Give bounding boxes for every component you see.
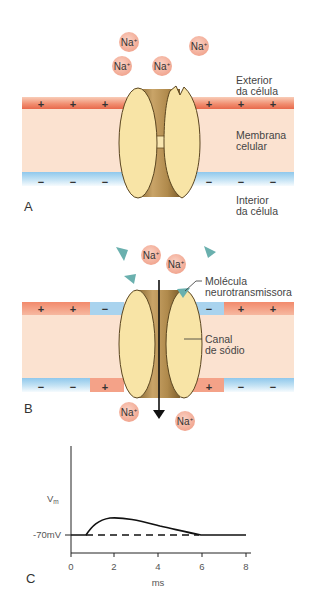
svg-text:−: −	[206, 303, 212, 315]
y-axis-label: Vm	[47, 493, 59, 505]
inner-negative-band	[22, 378, 90, 392]
x-tick-label: 8	[243, 561, 248, 572]
panel-label-a: A	[24, 199, 33, 214]
molecule-label-line2: neurotransmissora	[205, 286, 292, 298]
sodium-ion: Na+	[119, 32, 139, 52]
outer-positive-band	[22, 302, 90, 315]
sodium-ion: Na+	[119, 402, 139, 422]
svg-text:+: +	[38, 303, 44, 315]
sodium-channel-open	[119, 290, 202, 398]
panel-b: + + − − + + − − + + − −	[22, 245, 294, 431]
x-tick-label: 4	[155, 561, 160, 572]
membrane-potential-curve	[71, 518, 246, 535]
baseline-label: -70mV	[33, 529, 62, 540]
sodium-ion: Na+	[189, 36, 209, 56]
sodium-ion: Na+	[152, 56, 172, 76]
svg-text:+: +	[102, 381, 108, 393]
svg-text:−: −	[38, 381, 44, 393]
sodium-ion: Na+	[112, 56, 132, 76]
x-ticks	[71, 553, 246, 557]
svg-text:+: +	[70, 98, 76, 110]
arrow-head-icon	[153, 410, 165, 419]
svg-text:−: −	[102, 176, 108, 188]
svg-text:−: −	[38, 176, 44, 188]
svg-text:+: +	[206, 98, 212, 110]
x-tick-label: 0	[68, 561, 73, 572]
interior-label-line2: da célula	[236, 205, 278, 217]
panel-label-c: C	[26, 571, 35, 586]
svg-text:−: −	[70, 176, 76, 188]
channel-label-line2: de sódio	[205, 344, 245, 356]
sodium-channel-closed	[119, 86, 200, 198]
svg-text:−: −	[206, 176, 212, 188]
svg-text:+: +	[206, 381, 212, 393]
panel-a: + + + + + + − − − − − − Na+	[22, 32, 294, 217]
svg-text:+: +	[238, 98, 244, 110]
x-tick-label: 6	[199, 561, 204, 572]
svg-text:+: +	[70, 303, 76, 315]
sodium-ion: Na+	[166, 254, 186, 274]
x-tick-label: 2	[111, 561, 116, 572]
sodium-ion: Na+	[141, 245, 161, 265]
svg-text:+: +	[238, 303, 244, 315]
x-axis-label: ms	[152, 577, 165, 588]
membrane-label-line2: celular	[236, 140, 267, 152]
exterior-label-line2: da célula	[236, 85, 278, 97]
svg-text:−: −	[270, 176, 276, 188]
inner-negative-band	[224, 378, 294, 392]
panel-c-graph: 0 2 4 6 8 ms Vm -70mV C	[26, 446, 251, 588]
figure-canvas: + + + + + + − − − − − − Na+	[0, 0, 309, 598]
sodium-ion: Na+	[175, 411, 195, 431]
outer-positive-band	[224, 302, 294, 315]
panel-label-b: B	[24, 401, 33, 416]
svg-text:−: −	[70, 381, 76, 393]
svg-text:−: −	[270, 381, 276, 393]
svg-text:+: +	[102, 98, 108, 110]
svg-text:+: +	[270, 98, 276, 110]
svg-text:+: +	[270, 303, 276, 315]
svg-text:−: −	[238, 381, 244, 393]
svg-text:+: +	[38, 98, 44, 110]
svg-text:−: −	[238, 176, 244, 188]
svg-text:−: −	[102, 303, 108, 315]
